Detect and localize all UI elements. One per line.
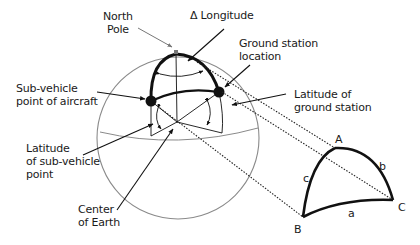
vertex-a-label: A — [335, 133, 343, 146]
polar-axis — [176, 53, 177, 123]
latitude-arc-ground-station — [207, 102, 210, 125]
equator — [100, 128, 258, 140]
north-pole-pointer — [138, 28, 172, 47]
north-pole-marker — [174, 50, 178, 54]
side-c-label: c — [303, 172, 309, 185]
label-center-of-earth: Center of Earth — [78, 203, 120, 229]
delta-longitude-pointer — [188, 29, 224, 61]
projection-line-b — [160, 108, 303, 217]
label-delta-longitude: Δ Longitude — [190, 9, 254, 22]
radius-to-equator-left — [151, 122, 177, 136]
center-of-earth-pointer — [117, 129, 173, 210]
latitude-ground-station-pointer — [232, 94, 286, 105]
triangle-side-b — [335, 148, 393, 200]
radius-to-ground-station — [177, 92, 219, 122]
label-ground-station-location: Ground station location — [239, 37, 318, 63]
sub-vehicle-point-dot — [146, 96, 157, 107]
vertex-c-label: C — [398, 201, 406, 214]
vertex-b-label: B — [294, 223, 302, 236]
latitude-arc-sub-vehicle — [157, 108, 161, 129]
sphere-diagram — [0, 0, 420, 245]
diagram-canvas: North Pole Δ Longitude Ground station lo… — [0, 0, 420, 245]
label-latitude-sub-vehicle: Latitude of sub-vehicle point — [26, 142, 100, 181]
sub-vehicle-pointer — [97, 92, 145, 99]
label-sub-vehicle-point: Sub-vehicle point of aircraft — [16, 82, 98, 108]
label-north-pole: North Pole — [103, 10, 133, 36]
side-a-label: a — [348, 207, 355, 220]
meridian-ground-station-thin — [219, 92, 223, 133]
label-latitude-ground-station: Latitude of ground station — [294, 88, 371, 114]
radius-to-equator-right — [177, 122, 222, 133]
delta-longitude-arc — [160, 71, 203, 76]
side-b-label: b — [379, 160, 386, 173]
